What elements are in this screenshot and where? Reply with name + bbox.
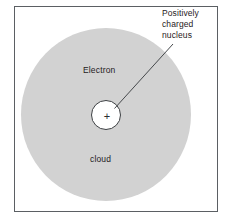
nucleus-callout-line-2: charged bbox=[162, 19, 224, 30]
figure-root: + Electron cloud Positively charged nucl… bbox=[0, 0, 227, 221]
electron-label: Electron bbox=[83, 65, 115, 76]
nucleus-callout-label: Positively charged nucleus bbox=[162, 8, 224, 40]
nucleus-callout-line-1: Positively bbox=[162, 8, 224, 19]
cloud-label: cloud bbox=[90, 154, 111, 165]
nucleus-callout-line-3: nucleus bbox=[162, 30, 224, 41]
